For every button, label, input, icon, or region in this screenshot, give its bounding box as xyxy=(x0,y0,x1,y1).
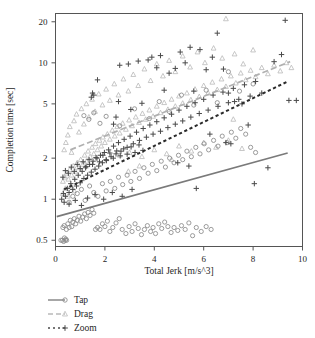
marker-triangle xyxy=(112,81,117,85)
marker-triangle xyxy=(131,72,136,76)
marker-circle xyxy=(185,149,189,153)
data-points-group xyxy=(59,16,299,243)
marker-triangle xyxy=(84,101,89,105)
marker-circle xyxy=(199,229,203,233)
marker-circle xyxy=(71,194,75,198)
marker-circle xyxy=(84,217,88,221)
marker-circle xyxy=(148,229,152,233)
marker-triangle xyxy=(289,65,294,69)
marker-triangle xyxy=(278,68,283,72)
marker-triangle xyxy=(201,83,206,87)
marker-triangle xyxy=(231,117,236,121)
marker-circle xyxy=(249,145,253,149)
marker-circle xyxy=(108,179,112,183)
marker-circle xyxy=(104,114,108,118)
marker-circle xyxy=(132,107,136,111)
marker-circle xyxy=(166,224,170,228)
marker-triangle xyxy=(251,47,256,51)
marker-circle xyxy=(172,225,176,229)
marker-triangle xyxy=(220,56,225,60)
marker-triangle xyxy=(189,149,194,153)
marker-triangle xyxy=(147,108,152,112)
marker-triangle xyxy=(180,54,185,58)
marker-circle xyxy=(198,152,202,156)
y-tick-label: 5 xyxy=(43,99,48,109)
x-tick-label: 2 xyxy=(103,254,108,264)
marker-triangle xyxy=(107,98,112,102)
marker-triangle xyxy=(67,124,72,128)
marker-circle xyxy=(194,145,198,149)
x-tick-label: 4 xyxy=(152,254,157,264)
marker-triangle xyxy=(126,89,131,93)
marker-circle xyxy=(125,173,129,177)
marker-triangle xyxy=(152,147,157,151)
marker-circle xyxy=(229,130,233,134)
marker-triangle xyxy=(240,146,245,150)
marker-triangle xyxy=(136,83,141,87)
legend-item-drag[interactable]: Drag xyxy=(48,309,93,319)
marker-circle xyxy=(211,138,215,142)
marker-circle xyxy=(181,158,185,162)
y-axis-title: Completion time [sec] xyxy=(5,88,15,173)
marker-triangle xyxy=(62,147,67,151)
marker-triangle xyxy=(96,91,101,95)
marker-circle xyxy=(157,222,161,226)
marker-circle xyxy=(187,221,191,225)
marker-circle xyxy=(146,171,150,175)
marker-triangle xyxy=(112,134,117,138)
marker-triangle xyxy=(72,118,77,122)
marker-circle xyxy=(204,224,208,228)
series-points-zoom xyxy=(59,18,299,209)
marker-triangle xyxy=(232,51,237,55)
marker-circle xyxy=(151,225,155,229)
marker-circle xyxy=(111,225,115,229)
marker-triangle xyxy=(161,73,166,77)
marker-triangle xyxy=(116,92,121,96)
legend-label: Zoom xyxy=(74,323,97,333)
y-tick-label: 2 xyxy=(43,153,48,163)
marker-triangle xyxy=(162,100,167,104)
marker-triangle xyxy=(127,118,132,122)
trend-line-zoom xyxy=(64,81,288,189)
marker-circle xyxy=(163,165,167,169)
marker-circle xyxy=(215,101,219,105)
marker-triangle xyxy=(104,87,109,91)
legend-item-zoom[interactable]: Zoom xyxy=(48,323,97,333)
marker-circle xyxy=(176,228,180,232)
marker-circle xyxy=(226,70,230,74)
marker-circle xyxy=(114,221,118,225)
marker-triangle xyxy=(77,130,82,134)
legend-label: Tap xyxy=(74,295,88,305)
x-tick-label: 10 xyxy=(298,254,308,264)
marker-triangle xyxy=(79,106,84,110)
marker-triangle xyxy=(259,65,264,69)
marker-circle xyxy=(234,136,238,140)
legend-item-tap[interactable]: Tap xyxy=(48,295,88,305)
marker-triangle xyxy=(103,140,108,144)
marker-triangle xyxy=(133,115,138,119)
marker-circle xyxy=(75,191,79,195)
marker-circle xyxy=(145,224,149,228)
marker-circle xyxy=(189,155,193,159)
marker-circle xyxy=(159,159,163,163)
y-tick-label: 1 xyxy=(43,194,48,204)
scatter-plot-svg: 0246810 0.51251020 Total Jerk [m/s^3] Co… xyxy=(0,0,315,338)
marker-triangle xyxy=(74,112,79,116)
y-tick-label: 20 xyxy=(39,17,49,27)
marker-circle xyxy=(163,220,167,224)
marker-triangle xyxy=(140,154,145,158)
marker-circle xyxy=(204,88,208,92)
marker-circle xyxy=(124,231,128,235)
marker-circle xyxy=(105,219,109,223)
marker-circle xyxy=(100,182,104,186)
marker-circle xyxy=(142,166,146,170)
marker-circle xyxy=(194,225,198,229)
marker-circle xyxy=(108,229,112,233)
marker-triangle xyxy=(148,78,153,82)
trend-line-drag xyxy=(70,62,290,150)
marker-triangle xyxy=(185,90,190,94)
marker-triangle xyxy=(100,102,105,106)
marker-triangle xyxy=(224,16,229,20)
marker-circle xyxy=(113,186,117,190)
x-tick-label: 0 xyxy=(53,254,58,264)
